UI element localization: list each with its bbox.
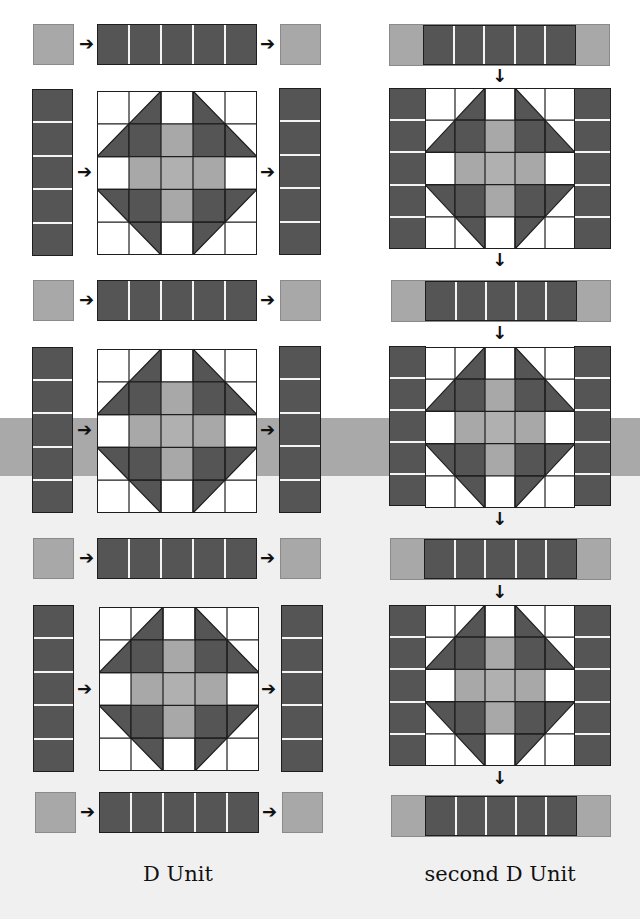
dark-strip-vertical-left (32, 89, 73, 256)
arrow-right-icon: ➔ (77, 163, 92, 181)
arrow-down-icon: ↓ (492, 510, 507, 528)
composite-strip (391, 280, 611, 322)
arrow-down-icon: ↓ (492, 67, 507, 85)
light-square-right (280, 280, 321, 321)
arrow-right-icon: ➔ (260, 35, 275, 53)
composite-strip (390, 538, 611, 580)
arrow-right-icon: ➔ (77, 680, 92, 698)
arrow-down-icon: ↓ (492, 769, 507, 787)
dark-strip-vertical-right (574, 88, 611, 249)
arrow-right-icon: ➔ (260, 163, 275, 181)
dark-strip-vertical-right (281, 605, 323, 772)
arrow-right-icon: ➔ (260, 291, 275, 309)
quilt-block (97, 349, 257, 513)
arrow-right-icon: ➔ (262, 803, 277, 821)
arrow-right-icon: ➔ (80, 803, 95, 821)
quilt-block (425, 347, 575, 508)
arrow-right-icon: ➔ (260, 549, 275, 567)
arrow-right-icon: ➔ (79, 549, 94, 567)
light-square-right (280, 538, 321, 579)
composite-strip (391, 795, 611, 837)
arrow-down-icon: ↓ (492, 251, 507, 269)
light-square-left (35, 792, 76, 833)
dark-strip-horizontal (97, 280, 257, 321)
dark-strip-horizontal (99, 792, 259, 833)
quilt-block (97, 91, 257, 255)
dark-strip-vertical-right (279, 346, 321, 513)
dark-strip-vertical-right (574, 346, 611, 506)
quilt-block (425, 605, 575, 766)
dark-strip-vertical-left (32, 347, 73, 513)
arrow-right-icon: ➔ (261, 680, 276, 698)
quilt-block (99, 607, 259, 771)
light-square-left (33, 538, 74, 579)
dark-strip-vertical-left (33, 605, 74, 772)
dark-strip-vertical-right (279, 88, 321, 255)
dark-strip-vertical-right (574, 605, 611, 766)
dark-strip-vertical-left (389, 605, 426, 766)
arrow-right-icon: ➔ (260, 421, 275, 439)
dark-strip-horizontal (97, 24, 257, 65)
quilt-block (425, 88, 575, 249)
dark-strip-vertical-left (389, 88, 426, 249)
arrow-down-icon: ↓ (492, 583, 507, 601)
light-square-right (282, 792, 323, 833)
label-second-d-unit: second D Unit (410, 862, 590, 886)
arrow-right-icon: ➔ (79, 291, 94, 309)
arrow-down-icon: ↓ (492, 324, 507, 342)
arrow-right-icon: ➔ (77, 421, 92, 439)
light-square-left (33, 24, 74, 65)
dark-strip-vertical-left (389, 346, 426, 506)
composite-strip (389, 24, 610, 66)
light-square-left (33, 280, 74, 321)
light-square-right (280, 24, 321, 65)
arrow-right-icon: ➔ (79, 35, 94, 53)
dark-strip-horizontal (97, 538, 257, 579)
label-d-unit: D Unit (118, 862, 238, 886)
